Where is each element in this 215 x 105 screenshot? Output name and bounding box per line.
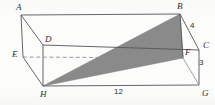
prism-diagram (0, 0, 215, 105)
edge-BC (180, 14, 199, 50)
dimension-label-hg: 12 (114, 88, 123, 96)
shaded-triangle-hbf (43, 14, 183, 86)
vertex-label-B: B (177, 2, 183, 11)
vertex-label-E: E (12, 50, 18, 59)
vertex-label-A: A (16, 3, 22, 12)
vertex-label-F: F (185, 48, 191, 57)
dimension-label-cg: 3 (199, 59, 203, 67)
vertex-label-D: D (45, 35, 52, 44)
edge-AE (21, 15, 23, 57)
vertex-label-C: C (203, 41, 209, 50)
vertex-label-H: H (40, 90, 47, 99)
edge-AB (21, 14, 180, 15)
edge-FG (183, 58, 199, 85)
dimension-label-bc: 4 (190, 22, 194, 30)
edge-AD (21, 15, 43, 45)
edge-EH (23, 57, 43, 86)
edge-HG (43, 85, 199, 86)
vertex-label-G: G (202, 89, 209, 98)
